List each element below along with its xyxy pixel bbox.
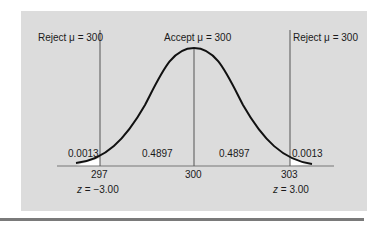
- tick-303: 303: [281, 169, 298, 180]
- z-left-value: = −3.00: [82, 184, 119, 195]
- accept-label: Accept μ = 300: [164, 32, 231, 43]
- p-right-mid: 0.4897: [219, 148, 250, 159]
- tick-300: 300: [185, 169, 202, 180]
- reject-left-label: Reject μ = 300: [38, 32, 103, 43]
- bottom-rule: [0, 218, 364, 221]
- reject-right-label: Reject μ = 300: [293, 32, 358, 43]
- z-right: z = 3.00: [273, 184, 309, 195]
- tick-297: 297: [91, 169, 108, 180]
- p-right-tail: 0.0013: [292, 148, 323, 159]
- p-left-tail: 0.0013: [68, 148, 99, 159]
- z-left: z = −3.00: [77, 184, 119, 195]
- z-right-value: = 3.00: [278, 184, 309, 195]
- p-left-mid: 0.4897: [142, 148, 173, 159]
